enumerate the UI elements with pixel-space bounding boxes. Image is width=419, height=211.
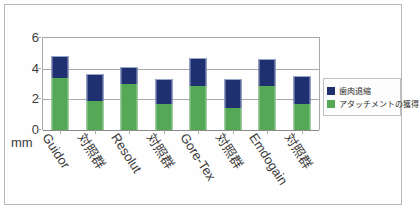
x-axis-labels: Guidor対照群Resolut対照群Gore-Tex対照群Emdogain対照… [42,131,318,207]
chart-frame: 0246 mm Guidor対照群Resolut対照群Gore-Tex対照群Em… [4,4,402,205]
bar-segment-attachment-gain[interactable] [52,78,69,130]
bar-segment-gingival-recession[interactable] [52,56,69,77]
bar-segment-gingival-recession[interactable] [190,58,207,86]
legend-item-label: 歯肉退縮 [339,85,371,96]
stacked-bar[interactable] [155,79,172,130]
legend-swatch-icon [327,87,335,95]
bar-segment-attachment-gain[interactable] [190,86,207,130]
bar-segment-gingival-recession[interactable] [293,76,310,104]
y-axis-tick-mark [37,98,41,99]
bar-slot [216,38,251,130]
bar-segment-gingival-recession[interactable] [121,67,138,84]
bar-slot [43,38,78,130]
bar-segment-attachment-gain[interactable] [259,86,276,130]
legend-swatch-icon [327,100,335,108]
bar-segment-gingival-recession[interactable] [224,79,241,107]
x-axis-tick-label: 対照群 [282,131,314,171]
y-axis-tick-mark [37,37,41,38]
stacked-bar[interactable] [121,67,138,130]
x-axis-tick-label: Resolut [109,131,144,175]
x-axis-tick-label: 対照群 [144,131,176,171]
y-axis-tick-mark [37,129,41,130]
y-axis-unit-label: mm [11,135,33,150]
y-axis-tick-label: 6 [7,31,39,44]
legend-item-label: アタッチメントの獲得 [339,98,419,109]
x-axis-tick-label: 対照群 [213,131,245,171]
stacked-bar[interactable] [86,74,103,130]
legend-item[interactable]: アタッチメントの獲得 [327,98,397,109]
bar-segment-attachment-gain[interactable] [155,104,172,130]
bar-segment-attachment-gain[interactable] [121,84,138,130]
bar-series-group [43,38,319,130]
bar-segment-attachment-gain[interactable] [224,108,241,130]
x-axis-tick-label: 対照群 [75,131,107,171]
bar-segment-attachment-gain[interactable] [293,104,310,130]
bar-slot [285,38,320,130]
x-axis-tick-label: Guidor [40,131,72,171]
stacked-bar[interactable] [224,79,241,130]
bar-segment-gingival-recession[interactable] [86,74,103,101]
plot-area [42,37,320,130]
bar-segment-gingival-recession[interactable] [155,79,172,104]
y-axis-tick-mark [37,68,41,69]
y-axis-tick-label: 4 [7,61,39,74]
stacked-bar[interactable] [190,58,207,130]
bar-slot [112,38,147,130]
bar-slot [250,38,285,130]
y-axis-tick-label: 2 [7,92,39,105]
stacked-bar[interactable] [259,59,276,130]
bar-slot [78,38,113,130]
bar-segment-gingival-recession[interactable] [259,59,276,86]
y-axis: 0246 [5,29,39,137]
bar-segment-attachment-gain[interactable] [86,101,103,130]
stacked-bar[interactable] [52,56,69,130]
bar-slot [181,38,216,130]
stacked-bar[interactable] [293,76,310,130]
legend-item[interactable]: 歯肉退縮 [327,85,397,96]
bar-slot [147,38,182,130]
chart-legend: 歯肉退縮アタッチメントの獲得 [323,78,401,116]
y-axis-tick-label: 0 [7,123,39,136]
